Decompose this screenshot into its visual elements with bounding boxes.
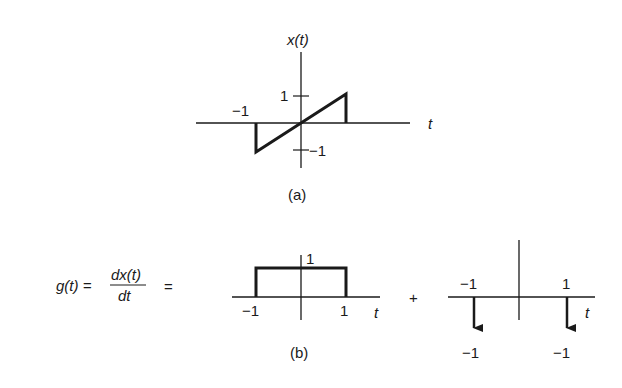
panel-a: x(t) 1 −1 −1 t (a): [196, 31, 433, 203]
impulse-right-amp-label: −1: [553, 344, 570, 361]
panel-b-equation: g(t) = dx(t) dt =: [56, 266, 173, 304]
panel-b-rect: 1 −1 1 t (b): [232, 250, 380, 361]
a-title: x(t): [286, 31, 309, 48]
panel-b-impulses: −1 1 −1 −1 t: [448, 240, 595, 361]
equals-sign: =: [164, 278, 173, 295]
rect-axis-label: t: [374, 304, 379, 321]
impulse-left-pos-label: −1: [460, 275, 477, 292]
impulse-axis-label: t: [585, 304, 590, 321]
fraction-denominator: dt: [118, 287, 131, 304]
rect-right-label: 1: [340, 302, 348, 319]
a-axis-label: t: [428, 115, 433, 132]
g-lhs: g(t) =: [56, 277, 92, 294]
a-left-mark-label: −1: [232, 102, 249, 119]
diagram-canvas: x(t) 1 −1 −1 t (a) g(t) = dx(t) dt = 1 −…: [0, 0, 622, 388]
fraction-numerator: dx(t): [111, 266, 141, 283]
plus-sign: +: [409, 289, 418, 306]
impulse-right-pos-label: 1: [562, 275, 570, 292]
rect-left-label: −1: [242, 302, 259, 319]
a-tick-neg-label: −1: [309, 142, 326, 159]
a-caption: (a): [288, 186, 306, 203]
b-caption: (b): [290, 344, 308, 361]
a-tick-pos-label: 1: [280, 87, 288, 104]
impulse-left-amp-label: −1: [462, 344, 479, 361]
rect-height-label: 1: [306, 250, 314, 267]
